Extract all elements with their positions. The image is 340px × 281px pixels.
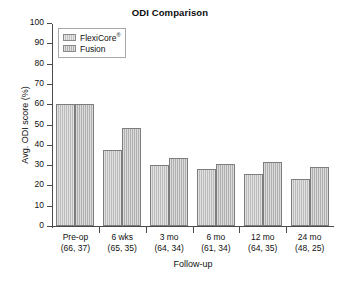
bar[interactable]: [103, 150, 122, 226]
bar[interactable]: [310, 167, 329, 226]
bar-group: [244, 23, 282, 226]
chart-figure: ODI Comparison Avg. ODI score (%) 010203…: [0, 0, 340, 281]
bar[interactable]: [244, 174, 263, 226]
y-tick-label: 20: [35, 179, 44, 189]
bar[interactable]: [197, 169, 216, 226]
y-tick: 0: [47, 226, 52, 227]
y-axis-line: [52, 24, 53, 228]
x-category-counts: (48, 25): [282, 243, 338, 254]
y-tick-label: 80: [35, 58, 44, 68]
y-tick: 50: [47, 125, 52, 126]
bar[interactable]: [169, 158, 188, 226]
bar[interactable]: [291, 179, 310, 226]
y-tick: 70: [47, 84, 52, 85]
bar-group: [150, 23, 188, 226]
x-category-name: 6 wks: [111, 232, 133, 242]
y-tick: 90: [47, 43, 52, 44]
legend-item-fusion[interactable]: Fusion: [63, 43, 120, 54]
x-category-name: Pre-op: [63, 232, 89, 242]
y-tick-label: 50: [35, 119, 44, 129]
legend-swatch-icon-fusion: [63, 45, 76, 52]
chart-title: ODI Comparison: [0, 7, 340, 18]
x-category-name: 24 mo: [298, 232, 322, 242]
legend-label-flexicore: FlexiCore®: [80, 32, 120, 43]
bar[interactable]: [150, 165, 169, 226]
bar[interactable]: [263, 162, 282, 226]
y-tick-label: 70: [35, 78, 44, 88]
bar-group: [291, 23, 329, 226]
x-category-label: 24 mo(48, 25): [282, 232, 338, 254]
y-tick-label: 30: [35, 159, 44, 169]
y-tick-label: 10: [35, 200, 44, 210]
x-axis-title: Follow-up: [52, 259, 334, 269]
bar[interactable]: [56, 104, 75, 226]
legend-label-fusion: Fusion: [80, 44, 106, 54]
bar[interactable]: [122, 128, 141, 226]
chart-legend: FlexiCore® Fusion: [58, 28, 126, 58]
y-tick-label: 60: [35, 98, 44, 108]
bar[interactable]: [216, 164, 235, 226]
y-axis-title: Avg. ODI score (%): [20, 50, 30, 200]
legend-item-flexicore[interactable]: FlexiCore®: [63, 32, 120, 43]
y-tick-label: 40: [35, 139, 44, 149]
x-category-name: 3 mo: [160, 232, 179, 242]
legend-swatch-icon-flexicore: [63, 34, 76, 41]
y-tick-label: 100: [30, 17, 44, 27]
y-tick: 100: [47, 23, 52, 24]
y-tick-label: 0: [39, 220, 44, 230]
x-category-name: 12 mo: [251, 232, 275, 242]
y-tick: 40: [47, 145, 52, 146]
bar-group: [197, 23, 235, 226]
y-tick-label: 90: [35, 37, 44, 47]
y-tick: 10: [47, 206, 52, 207]
y-tick: 30: [47, 165, 52, 166]
bar[interactable]: [75, 104, 94, 226]
y-tick: 20: [47, 185, 52, 186]
y-tick: 60: [47, 104, 52, 105]
y-tick: 80: [47, 64, 52, 65]
x-category-name: 6 mo: [206, 232, 225, 242]
